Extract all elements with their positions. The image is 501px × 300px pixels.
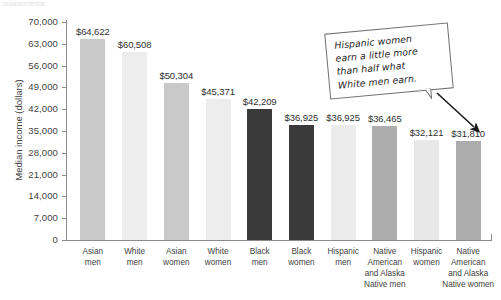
bar-chart: Median income (dollars) 70,00063,00056,0… bbox=[0, 0, 501, 300]
bar bbox=[164, 83, 189, 240]
y-axis-title: Median income (dollars) bbox=[14, 40, 24, 220]
bar-value-label: $45,371 bbox=[192, 87, 244, 97]
bar bbox=[206, 99, 231, 240]
bar-value-label: $42,209 bbox=[234, 97, 286, 107]
bar bbox=[456, 141, 481, 240]
y-tick-label: 28,000 bbox=[28, 148, 58, 158]
category-label-line: Native women bbox=[442, 279, 494, 290]
y-tick-label: 14,000 bbox=[28, 191, 58, 201]
y-tick-mark bbox=[62, 218, 67, 219]
bar-value-label: $60,508 bbox=[109, 40, 161, 50]
y-tick-label: 70,000 bbox=[28, 17, 58, 27]
y-tick-mark bbox=[62, 22, 67, 23]
y-tick-label: 56,000 bbox=[28, 61, 58, 71]
y-tick-label: 35,000 bbox=[28, 126, 58, 136]
bar-value-label: $64,622 bbox=[67, 27, 119, 37]
y-tick-mark bbox=[62, 44, 67, 45]
y-tick-label: 63,000 bbox=[28, 39, 58, 49]
category-label-line: and Alaska bbox=[442, 268, 494, 279]
y-tick-mark bbox=[62, 66, 67, 67]
y-tick-mark bbox=[62, 109, 67, 110]
category-label-line: Native bbox=[442, 246, 494, 257]
bar bbox=[414, 140, 439, 240]
bar bbox=[331, 125, 356, 240]
x-axis-line bbox=[66, 240, 492, 241]
y-tick-label: 0 bbox=[53, 235, 58, 245]
y-tick-mark bbox=[62, 153, 67, 154]
category-label-line: and Alaska bbox=[359, 268, 411, 279]
category-label-line: Native men bbox=[359, 279, 411, 290]
y-tick-label: 7,000 bbox=[34, 213, 58, 223]
bar bbox=[122, 52, 147, 240]
category-label: NativeAmericanand AlaskaNative women bbox=[442, 246, 494, 290]
bar-value-label: $36,465 bbox=[359, 114, 411, 124]
bar bbox=[80, 39, 105, 240]
y-tick-label: 21,000 bbox=[28, 170, 58, 180]
bar-value-label: $50,304 bbox=[150, 71, 202, 81]
category-label-line: American bbox=[442, 257, 494, 268]
y-tick-mark bbox=[62, 196, 67, 197]
bar bbox=[247, 109, 272, 241]
callout-text: Hispanic womenearn a little morethan hal… bbox=[334, 29, 446, 91]
x-axis-endcap bbox=[491, 234, 492, 241]
callout-tail bbox=[418, 88, 433, 100]
y-tick-mark bbox=[62, 240, 67, 241]
y-tick-mark bbox=[62, 131, 67, 132]
y-tick-label: 49,000 bbox=[28, 82, 58, 92]
bar bbox=[372, 126, 397, 240]
y-tick-label: 42,000 bbox=[28, 104, 58, 114]
y-tick-mark bbox=[62, 87, 67, 88]
y-tick-mark bbox=[62, 175, 67, 176]
hispanic-women-callout: Hispanic womenearn a little morethan hal… bbox=[324, 23, 453, 100]
bar bbox=[289, 125, 314, 240]
bar-value-label: $31,810 bbox=[442, 129, 494, 139]
